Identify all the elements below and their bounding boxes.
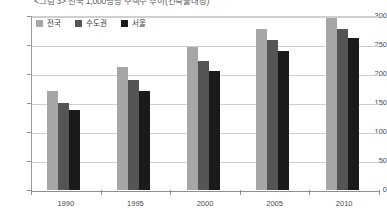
legend-item-label: 서울: [132, 19, 146, 28]
bar: [326, 18, 337, 190]
bar: [69, 110, 80, 190]
bar: [198, 61, 209, 190]
plot-area: [31, 16, 379, 190]
chart-title: <그림 3> 전국 1,000명당 주택수 추이(건축물대장): [34, 0, 354, 7]
legend-swatch-icon: [36, 20, 43, 27]
legend-swatch-icon: [121, 20, 128, 27]
x-axis-tick-label: 2005: [245, 199, 305, 208]
legend-item-label: 전국: [47, 19, 61, 28]
bar: [58, 103, 69, 190]
x-axis-tick-label: 2000: [175, 199, 235, 208]
gridline: [32, 191, 379, 192]
bar: [348, 38, 359, 190]
bar: [117, 67, 128, 190]
legend-item: 서울: [121, 19, 146, 28]
legend-swatch-icon: [75, 20, 82, 27]
bar: [256, 29, 267, 190]
x-axis-tick-mark: [379, 190, 380, 195]
bar: [47, 91, 58, 190]
chart-figure: <그림 3> 전국 1,000명당 주택수 추이(건축물대장) 05010015…: [0, 0, 387, 221]
bar: [337, 29, 348, 190]
chart-legend: 전국수도권서울: [32, 17, 150, 30]
bar: [278, 51, 289, 190]
legend-item: 전국: [36, 19, 61, 28]
bar: [139, 91, 150, 190]
bar: [267, 40, 278, 190]
x-axis-tick-label: 2010: [314, 199, 374, 208]
legend-item: 수도권: [75, 19, 107, 28]
x-axis-tick-label: 1995: [105, 199, 165, 208]
x-axis-tick-label: 1990: [36, 199, 96, 208]
bar: [187, 47, 198, 190]
bar: [128, 80, 139, 190]
bar: [209, 71, 220, 190]
legend-item-label: 수도권: [86, 19, 107, 28]
